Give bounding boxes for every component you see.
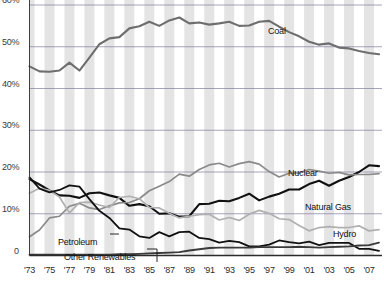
year-band	[144, 0, 154, 256]
year-band	[324, 0, 334, 256]
petroleum-label: Petroleum	[58, 237, 97, 247]
year-band	[84, 0, 94, 256]
year-band	[344, 0, 354, 256]
y-tick-40pct: 40%	[2, 79, 19, 89]
year-band	[64, 0, 74, 256]
year-band	[264, 0, 274, 256]
year-band	[364, 0, 374, 256]
hydro-label: Hydro	[333, 229, 356, 239]
y-tick-0: 0	[14, 246, 19, 256]
year-bands-group	[30, 0, 375, 256]
year-band	[304, 0, 314, 256]
y-tick-60pct: 60%	[2, 0, 19, 5]
year-band	[30, 0, 35, 256]
coal-label: Coal	[268, 26, 286, 36]
nuclear-label: Nuclear	[288, 168, 318, 178]
year-band	[284, 0, 294, 256]
y-tick-50pct: 50%	[2, 37, 19, 47]
year-band	[164, 0, 174, 256]
other-renewables-label: Other Renewables	[64, 252, 135, 262]
y-tick-30pct: 30%	[2, 120, 19, 130]
y-tick-10pct: 10%	[2, 204, 19, 214]
chart-container: 010%20%30%40%50%60% '73'75'77'79'81'83'8…	[0, 0, 384, 283]
y-tick-20pct: 20%	[2, 162, 19, 172]
year-band	[124, 0, 134, 256]
natural-gas-label: Natural Gas	[305, 202, 351, 212]
x-tick-y07: '07	[357, 265, 381, 275]
